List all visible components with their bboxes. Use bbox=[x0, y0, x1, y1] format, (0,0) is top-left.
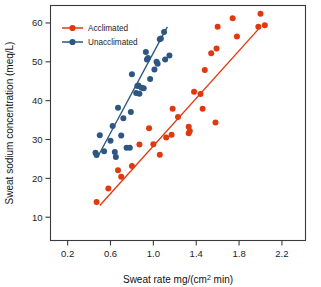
legend-item-acclimated: Acclimated bbox=[62, 24, 128, 33]
legend-label: Acclimated bbox=[88, 24, 128, 33]
data-point-acclimated bbox=[230, 15, 236, 21]
data-point-acclimated bbox=[255, 24, 261, 30]
data-point-acclimated bbox=[187, 128, 193, 134]
data-point-acclimated bbox=[136, 142, 142, 148]
data-point-acclimated bbox=[214, 46, 220, 52]
x-tick-label: 2.2 bbox=[275, 248, 288, 259]
data-point-acclimated bbox=[157, 152, 163, 158]
data-point-acclimated bbox=[118, 174, 124, 180]
data-point-unacclimated bbox=[101, 148, 107, 154]
x-tick-label: 1.4 bbox=[190, 248, 203, 259]
x-axis-title: Sweat rate mg/(cm2 min) bbox=[123, 274, 233, 285]
data-point-acclimated bbox=[191, 89, 197, 95]
x-tick-label: 0.2 bbox=[61, 248, 74, 259]
data-point-unacclimated bbox=[115, 105, 121, 111]
data-point-acclimated bbox=[262, 22, 268, 28]
data-point-unacclimated bbox=[147, 76, 153, 82]
y-tick-label: 10 bbox=[32, 212, 43, 223]
data-point-acclimated bbox=[202, 67, 208, 73]
data-point-unacclimated bbox=[161, 29, 167, 35]
data-point-acclimated bbox=[200, 106, 206, 112]
data-point-unacclimated bbox=[108, 138, 114, 144]
data-point-acclimated bbox=[105, 185, 111, 191]
x-tick-label: 1.0 bbox=[147, 248, 160, 259]
x-axis-title-tail: min) bbox=[211, 274, 233, 285]
data-point-unacclimated bbox=[110, 123, 116, 129]
y-tick-label: 50 bbox=[32, 56, 43, 67]
data-point-acclimated bbox=[150, 141, 156, 147]
data-point-acclimated bbox=[115, 167, 121, 173]
y-tick-label: 60 bbox=[32, 17, 43, 28]
data-point-acclimated bbox=[129, 163, 135, 169]
data-point-acclimated bbox=[208, 50, 214, 56]
data-point-unacclimated bbox=[129, 71, 135, 77]
data-point-unacclimated bbox=[118, 133, 124, 139]
chart-figure: 0.20.61.01.41.82.2102030405060Sweat rate… bbox=[0, 0, 321, 287]
y-tick-label: 20 bbox=[32, 173, 43, 184]
data-point-acclimated bbox=[213, 119, 219, 125]
data-point-unacclimated bbox=[151, 67, 157, 73]
data-point-acclimated bbox=[258, 11, 264, 17]
data-point-unacclimated bbox=[128, 109, 134, 115]
data-point-acclimated bbox=[234, 34, 240, 40]
data-point-unacclimated bbox=[120, 115, 126, 121]
x-tick-label: 1.8 bbox=[232, 248, 245, 259]
y-tick-label: 30 bbox=[32, 134, 43, 145]
legend-swatch-marker bbox=[69, 25, 75, 31]
data-point-unacclimated bbox=[94, 152, 100, 158]
data-point-acclimated bbox=[215, 24, 221, 30]
y-axis-title: Sweat sodium concentration (meq/L) bbox=[4, 42, 15, 205]
legend-label: Unacclimated bbox=[88, 38, 138, 47]
data-point-unacclimated bbox=[136, 91, 142, 97]
data-point-unacclimated bbox=[141, 85, 147, 91]
data-point-acclimated bbox=[170, 106, 176, 112]
data-point-acclimated bbox=[175, 114, 181, 120]
y-tick-label: 40 bbox=[32, 95, 43, 106]
data-point-unacclimated bbox=[113, 154, 119, 160]
x-tick-label: 0.6 bbox=[104, 248, 117, 259]
data-point-unacclimated bbox=[158, 36, 164, 42]
data-point-unacclimated bbox=[155, 61, 161, 67]
data-point-unacclimated bbox=[127, 145, 133, 151]
data-point-unacclimated bbox=[145, 55, 151, 61]
data-point-acclimated bbox=[146, 125, 152, 131]
data-point-acclimated bbox=[94, 199, 100, 205]
legend-swatch-marker bbox=[69, 39, 75, 45]
data-point-acclimated bbox=[198, 91, 204, 97]
data-point-acclimated bbox=[163, 135, 169, 141]
legend-item-unacclimated: Unacclimated bbox=[62, 38, 138, 47]
data-point-unacclimated bbox=[143, 49, 149, 55]
data-point-acclimated bbox=[169, 132, 175, 138]
data-point-unacclimated bbox=[97, 132, 103, 138]
scatter-plot: 0.20.61.01.41.82.2102030405060Sweat rate… bbox=[0, 0, 321, 287]
data-point-unacclimated bbox=[166, 53, 172, 59]
data-point-unacclimated bbox=[112, 149, 118, 155]
